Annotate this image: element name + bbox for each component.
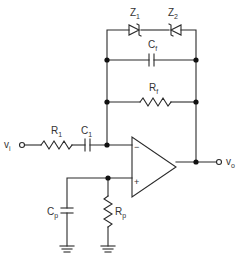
rf-branch: Rf (107, 82, 196, 106)
output-path: vo (176, 156, 235, 169)
vi-label: vi (4, 139, 11, 152)
noninverting-input-sign: + (134, 177, 139, 187)
cp-label: Cp (47, 206, 58, 220)
zener-diode-z2-icon (169, 24, 181, 36)
vi-terminal[interactable] (20, 143, 25, 148)
z1-label: Z1 (130, 7, 140, 20)
c1-label: C1 (81, 125, 92, 138)
zener-diode-z1-icon (129, 24, 141, 36)
z2-label: Z2 (168, 7, 178, 20)
ground-icon (60, 246, 74, 252)
opamp-icon: − + (132, 137, 176, 197)
rp-label: Rp (115, 206, 126, 220)
ground-icon (101, 246, 115, 252)
cf-branch: Cf (107, 39, 196, 66)
zener-branch: Z1 Z2 (107, 7, 196, 60)
inverting-input-sign: − (134, 142, 139, 152)
noninverting-network: Cp Rp (47, 178, 132, 252)
r1-label: R1 (51, 125, 62, 138)
vo-label: vo (226, 156, 235, 169)
vo-terminal[interactable] (217, 160, 222, 165)
input-path: vi R1 C1 (4, 125, 132, 152)
rf-label: Rf (149, 82, 158, 95)
circuit-schematic: Z1 Z2 Cf Rf vi R1 C1 − + (0, 0, 240, 261)
cf-label: Cf (148, 39, 157, 52)
